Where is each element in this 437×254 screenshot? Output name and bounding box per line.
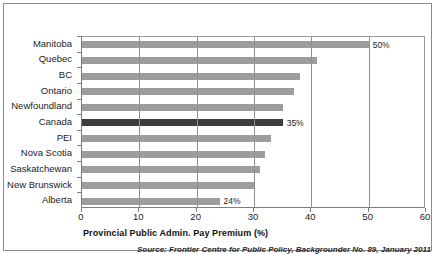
category-label-bc: BC bbox=[59, 70, 72, 80]
bar-new-brunswick bbox=[82, 182, 254, 189]
bar-pei bbox=[82, 135, 271, 142]
x-tick-label-40: 40 bbox=[305, 212, 316, 222]
bar-manitoba bbox=[82, 41, 369, 48]
chart-figure: ManitobaQuebecBCOntarioNewfoundlandCanad… bbox=[0, 0, 437, 254]
bar-row: 50% bbox=[82, 37, 424, 53]
category-label-pei: PEI bbox=[57, 133, 72, 143]
gridline-30 bbox=[254, 37, 255, 207]
category-label-quebec: Quebec bbox=[39, 54, 72, 64]
category-label-new-brunswick: New Brunswick bbox=[7, 180, 72, 190]
bar-row bbox=[82, 84, 424, 100]
category-label-canada: Canada bbox=[39, 117, 72, 127]
category-label-nova-scotia: Nova Scotia bbox=[21, 148, 72, 158]
bar-value-label: 24% bbox=[224, 197, 241, 206]
bar-canada bbox=[82, 119, 283, 126]
category-label-ontario: Ontario bbox=[41, 86, 72, 96]
bar-row: 35% bbox=[82, 115, 424, 131]
bar-bc bbox=[82, 73, 300, 80]
bar-row bbox=[82, 162, 424, 178]
x-axis-title: Provincial Public Admin. Pay Premium (%) bbox=[83, 228, 268, 238]
category-label-manitoba: Manitoba bbox=[33, 39, 72, 49]
category-label-alberta: Alberta bbox=[42, 195, 72, 205]
bar-row bbox=[82, 68, 424, 84]
gridline-40 bbox=[311, 37, 312, 207]
x-axis-tick-labels: 0102030405060 bbox=[81, 212, 425, 226]
bar-saskatchewan bbox=[82, 166, 260, 173]
bar-row bbox=[82, 131, 424, 147]
category-label-newfoundland: Newfoundland bbox=[11, 101, 72, 111]
bar-nova-scotia bbox=[82, 151, 265, 158]
x-tick-label-0: 0 bbox=[78, 212, 83, 222]
plot-area: 50%35%24% bbox=[81, 36, 425, 208]
bar-row bbox=[82, 178, 424, 194]
bar-value-label: 35% bbox=[287, 119, 304, 128]
category-axis-labels: ManitobaQuebecBCOntarioNewfoundlandCanad… bbox=[0, 36, 77, 208]
bar-row bbox=[82, 146, 424, 162]
bar-row bbox=[82, 100, 424, 116]
gridline-20 bbox=[197, 37, 198, 207]
bar-alberta bbox=[82, 198, 220, 205]
x-tick-label-60: 60 bbox=[420, 212, 431, 222]
bar-rows: 50%35%24% bbox=[82, 37, 424, 207]
x-tick-label-30: 30 bbox=[248, 212, 259, 222]
bar-ontario bbox=[82, 88, 294, 95]
x-tick-label-50: 50 bbox=[362, 212, 373, 222]
bar-row bbox=[82, 53, 424, 69]
bar-value-label: 50% bbox=[373, 41, 390, 50]
bar-row: 24% bbox=[82, 193, 424, 209]
category-label-saskatchewan: Saskatchewan bbox=[10, 164, 72, 174]
x-tick-label-10: 10 bbox=[133, 212, 144, 222]
x-tick-label-20: 20 bbox=[190, 212, 201, 222]
gridline-10 bbox=[139, 37, 140, 207]
bar-newfoundland bbox=[82, 104, 283, 111]
gridline-50 bbox=[369, 37, 370, 207]
source-note: Source: Frontier Centre for Public Polic… bbox=[137, 245, 431, 254]
bar-quebec bbox=[82, 57, 317, 64]
